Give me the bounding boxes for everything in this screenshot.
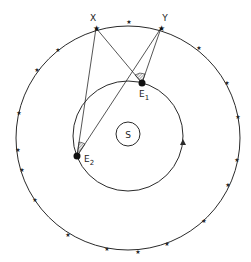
svg-text:★: ★	[19, 166, 24, 173]
svg-text:★: ★	[234, 156, 239, 163]
star-x-label: X	[90, 13, 96, 23]
svg-text:★: ★	[32, 196, 37, 203]
svg-text:★: ★	[135, 248, 140, 255]
earth-2-label-sub: 2	[90, 159, 94, 167]
parallax-diagram: ★ ★ ★ ★ ★ ★ ★ ★ ★ ★ ★ ★ ★ ★ ★ ★ ★ S	[0, 0, 251, 262]
star-y-icon: ★	[158, 24, 165, 33]
svg-text:★: ★	[201, 217, 206, 224]
svg-text:★: ★	[196, 44, 201, 51]
svg-text:★: ★	[164, 240, 169, 247]
star-y-label: Y	[161, 13, 168, 23]
svg-text:★: ★	[224, 79, 229, 86]
svg-text:★: ★	[65, 231, 70, 238]
earth-1-label: E1	[139, 89, 149, 102]
orbit-direction-arrow-icon	[180, 139, 186, 145]
svg-text:★: ★	[15, 146, 20, 153]
earth-position-2	[74, 153, 81, 160]
earth-1-label-sub: 1	[145, 94, 149, 102]
sight-lines	[77, 28, 161, 156]
sun-label: S	[125, 130, 131, 140]
earth-position-1	[139, 80, 146, 87]
svg-text:★: ★	[16, 109, 21, 116]
svg-text:★: ★	[225, 181, 230, 188]
svg-text:★: ★	[235, 113, 240, 120]
svg-text:★: ★	[34, 66, 39, 73]
star-x-icon: ★	[93, 24, 100, 33]
earth-2-label: E2	[84, 154, 94, 167]
svg-text:★: ★	[104, 245, 109, 252]
svg-text:★: ★	[55, 46, 60, 53]
svg-text:★: ★	[126, 18, 131, 25]
